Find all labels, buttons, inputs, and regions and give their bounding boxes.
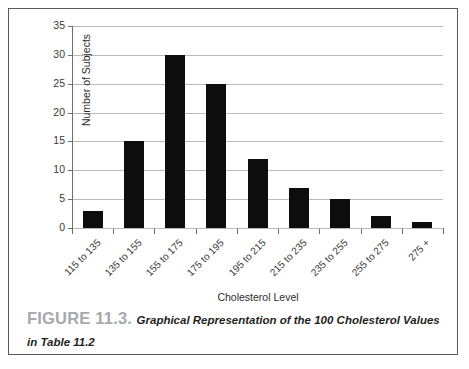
x-tick-mark xyxy=(402,229,403,234)
bar xyxy=(412,222,432,228)
x-tick-mark xyxy=(196,229,197,234)
bar xyxy=(371,216,391,228)
figure-caption: FIGURE 11.3. Graphical Representation of… xyxy=(27,307,445,352)
x-tick-mark xyxy=(113,229,114,234)
bar xyxy=(330,199,350,228)
bar-chart: Number of Subjects 05101520253035 115 to… xyxy=(9,9,459,299)
y-tick-label: 10 xyxy=(43,164,65,175)
y-tick-mark xyxy=(68,113,73,114)
y-axis-title: Number of Subjects xyxy=(80,25,92,135)
y-tick-mark xyxy=(68,141,73,142)
gridline xyxy=(72,26,443,27)
gridline xyxy=(72,55,443,56)
y-tick-label: 15 xyxy=(43,135,65,146)
y-tick-mark xyxy=(68,84,73,85)
gridline xyxy=(72,113,443,114)
bar xyxy=(83,211,103,228)
x-tick-mark xyxy=(278,229,279,234)
y-tick-mark xyxy=(68,55,73,56)
bar xyxy=(165,55,185,228)
x-tick-mark xyxy=(72,229,73,234)
x-tick-mark xyxy=(154,229,155,234)
y-tick-label: 25 xyxy=(43,78,65,89)
gridline xyxy=(72,228,443,229)
y-tick-mark xyxy=(68,26,73,27)
y-tick-label: 20 xyxy=(43,107,65,118)
plot-area: Number of Subjects xyxy=(72,26,443,228)
x-axis-title: Cholesterol Level xyxy=(72,291,444,303)
y-tick-label: 35 xyxy=(43,20,65,31)
bar xyxy=(206,84,226,228)
x-tick-mark xyxy=(237,229,238,234)
y-tick-mark xyxy=(68,170,73,171)
bar xyxy=(289,188,309,228)
x-tick-mark xyxy=(361,229,362,234)
x-tick-mark xyxy=(443,229,444,234)
gridline xyxy=(72,84,443,85)
y-tick-label: 30 xyxy=(43,49,65,60)
figure-frame: Number of Subjects 05101520253035 115 to… xyxy=(8,8,458,355)
bar xyxy=(124,141,144,228)
y-tick-mark xyxy=(68,199,73,200)
y-tick-label: 0 xyxy=(43,222,65,233)
figure-caption-label: FIGURE 11.3. xyxy=(27,309,132,327)
bar xyxy=(248,159,268,228)
y-tick-label: 5 xyxy=(43,193,65,204)
x-tick-mark xyxy=(319,229,320,234)
